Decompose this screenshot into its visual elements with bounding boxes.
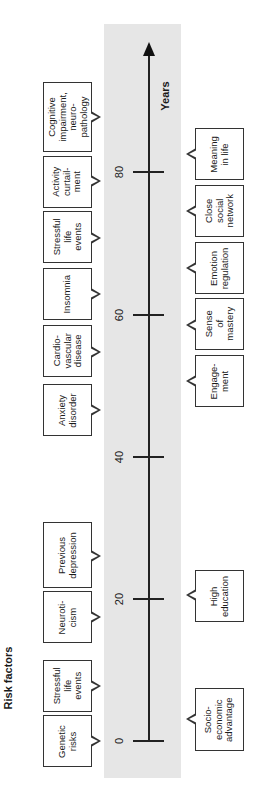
factor-label: High education <box>209 575 230 616</box>
factor-label: Insomnia <box>62 275 73 314</box>
tick-label: 0 <box>112 729 126 753</box>
callout-pointer-icon <box>186 148 196 160</box>
risk-factors-title: Risk factors <box>1 640 15 716</box>
risk-factor-box: Stressful life events <box>43 660 92 712</box>
protective-factor-box: Meaning in life <box>195 128 244 180</box>
callout-pointer-icon <box>186 713 196 725</box>
callout-pointer-icon <box>186 262 196 274</box>
callout-pointer-icon <box>91 550 101 562</box>
risk-factor-box: Cardio- vascular disease <box>43 325 92 377</box>
protective-factor-box: Engage- ment <box>195 355 244 407</box>
factor-label: Socio- economic advantage <box>204 697 236 741</box>
axis-tick <box>133 740 164 742</box>
risk-factor-box: Stressful life events <box>43 211 92 263</box>
risk-factor-box: Cognitive impairment, neuro- pathology <box>43 82 92 152</box>
axis-tick <box>133 171 164 173</box>
arrow-up-icon <box>143 42 155 56</box>
callout-pointer-icon <box>91 175 101 187</box>
factor-label: Sense of mastery <box>204 307 236 341</box>
factor-label: Engage- ment <box>209 363 230 399</box>
timeline-band <box>104 24 181 778</box>
protective-factor-box: Emotion regulation <box>195 242 244 294</box>
callout-pointer-icon <box>186 589 196 601</box>
callout-pointer-icon <box>91 288 101 300</box>
tick-label: 20 <box>112 587 126 611</box>
factor-label: Cognitive impairment, neuro- pathology <box>47 92 89 142</box>
risk-factor-box: Anxiety disorder <box>43 384 92 436</box>
factor-label: Cardio- vascular disease <box>52 333 84 368</box>
factor-label: Meaning in life <box>209 136 230 172</box>
timeline-axis <box>148 50 150 742</box>
factor-label: Stressful life events <box>52 219 84 256</box>
callout-pointer-icon <box>91 232 101 244</box>
risk-factor-box: Genetic risks <box>43 715 92 767</box>
factor-label: Anxiety disorder <box>57 393 78 427</box>
factor-label: Previous depression <box>57 532 78 578</box>
axis-tick <box>133 598 164 600</box>
risk-factor-box: Previous depression <box>43 522 92 588</box>
callout-pointer-icon <box>91 111 101 123</box>
tick-label: 60 <box>112 303 126 327</box>
protective-factor-box: Socio- economic advantage <box>195 688 244 751</box>
callout-pointer-icon <box>186 375 196 387</box>
axis-tick <box>133 456 164 458</box>
protective-factor-box: Sense of mastery <box>195 298 244 350</box>
protective-factor-box: High education <box>195 570 244 622</box>
risk-factor-box: Neuroti- cism <box>43 591 92 643</box>
risk-factor-box: Activity curtail- ment <box>43 156 92 208</box>
axis-label: Years <box>158 78 172 114</box>
protective-factor-box: Close social network <box>195 185 244 237</box>
callout-pointer-icon <box>91 735 101 747</box>
axis-tick <box>133 314 164 316</box>
callout-pointer-icon <box>91 680 101 692</box>
callout-pointer-icon <box>186 319 196 331</box>
factor-label: Neuroti- cism <box>57 600 78 634</box>
callout-pointer-icon <box>91 346 101 358</box>
factor-label: Stressful life events <box>52 668 84 705</box>
factor-label: Emotion regulation <box>209 247 230 289</box>
tick-label: 40 <box>112 445 126 469</box>
callout-pointer-icon <box>91 611 101 623</box>
factor-label: Activity curtail- ment <box>52 167 84 197</box>
callout-pointer-icon <box>186 205 196 217</box>
factor-label: Close social network <box>204 194 236 227</box>
risk-factor-box: Insomnia <box>43 268 92 320</box>
tick-label: 80 <box>112 160 126 184</box>
callout-pointer-icon <box>91 404 101 416</box>
factor-label: Genetic risks <box>57 725 78 758</box>
